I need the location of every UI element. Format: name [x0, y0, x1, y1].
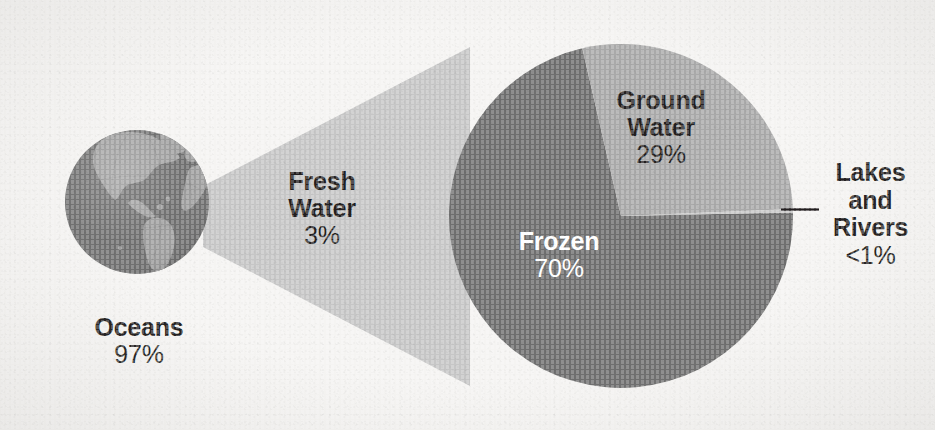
label-oceans-percent: 97% — [0, 341, 278, 368]
label-lakes-line2: and — [849, 186, 893, 214]
label-oceans-title: Oceans — [94, 313, 183, 341]
label-frozen-percent: 70% — [470, 255, 648, 282]
label-ground-water-line2: Water — [627, 113, 695, 141]
label-oceans: Oceans 97% — [0, 314, 278, 368]
label-fresh-water: Fresh Water 3% — [222, 168, 422, 249]
earth-globe — [65, 130, 209, 274]
label-frozen: Frozen 70% — [470, 228, 648, 282]
label-ground-water-percent: 29% — [566, 141, 756, 168]
label-lakes-and-rivers: Lakes and Rivers <1% — [806, 159, 935, 269]
label-lakes-line3: Rivers — [833, 213, 908, 241]
label-ground-water-line1: Ground — [616, 86, 705, 114]
label-lakes-line1: Lakes — [836, 158, 906, 186]
label-fresh-water-line2: Water — [288, 194, 356, 222]
label-fresh-water-percent: 3% — [222, 222, 422, 249]
figure-canvas: Oceans 97% Fresh Water 3% Ground Water 2… — [0, 0, 935, 430]
label-ground-water: Ground Water 29% — [566, 87, 756, 168]
label-frozen-title: Frozen — [519, 227, 600, 255]
label-lakes-percent: <1% — [806, 242, 935, 270]
label-fresh-water-line1: Fresh — [288, 167, 355, 195]
